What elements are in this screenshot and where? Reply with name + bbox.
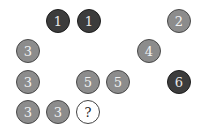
puzzle-board: 1 1 2 3 4 3 5 5 6 3 3 ? [0,0,203,139]
circle-label: 6 [175,76,183,89]
circle-label: 3 [24,45,32,58]
circle-label: 1 [54,15,62,28]
circle-5b: 5 [106,70,130,94]
circle-5a: 5 [76,70,100,94]
circle-label: 3 [24,106,32,119]
circle-6: 6 [167,70,191,94]
circle-1a: 1 [46,9,70,33]
circle-3c: 3 [16,100,40,124]
circle-3b: 3 [16,70,40,94]
circle-3a: 3 [16,39,40,63]
circle-label: 3 [24,76,32,89]
circle-label: 4 [145,45,153,58]
circle-3d: 3 [46,100,70,124]
circle-label: 5 [114,76,122,89]
circle-2: 2 [167,9,191,33]
answer-circle-question[interactable]: ? [76,100,100,124]
circle-label: ? [85,106,92,119]
circle-label: 3 [54,106,62,119]
circle-4: 4 [137,39,161,63]
circle-label: 2 [175,15,183,28]
circle-label: 5 [84,76,92,89]
circle-1b: 1 [77,9,101,33]
circle-label: 1 [85,15,93,28]
